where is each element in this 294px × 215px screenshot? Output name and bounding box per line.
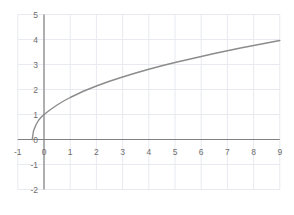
y-tick-label: 4	[28, 35, 38, 44]
x-tick-label: 9	[277, 148, 282, 157]
y-tick-label: 3	[28, 60, 38, 69]
x-tick-label: 3	[120, 148, 125, 157]
x-tick-label: 1	[68, 148, 73, 157]
x-tick-label: 8	[251, 148, 256, 157]
x-tick-label: 2	[94, 148, 99, 157]
x-tick-label: -1	[14, 148, 22, 157]
x-tick-label: 0	[42, 148, 47, 157]
x-tick-label: 4	[146, 148, 151, 157]
vertical-gridlines	[18, 15, 280, 190]
y-tick-label: 1	[28, 110, 38, 119]
x-tick-label: 6	[199, 148, 204, 157]
plot-canvas	[0, 0, 294, 215]
chart-container: -10123456789 -2-1012345	[0, 0, 294, 215]
y-tick-label: -2	[28, 185, 38, 194]
y-tick-label: 0	[28, 135, 38, 144]
y-tick-label: 5	[28, 10, 38, 19]
y-tick-label: -1	[28, 160, 38, 169]
x-tick-label: 5	[173, 148, 178, 157]
x-tick-label: 7	[225, 148, 230, 157]
y-tick-label: 2	[28, 85, 38, 94]
